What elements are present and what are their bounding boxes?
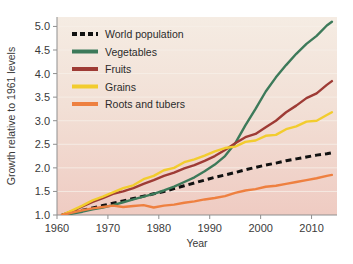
y-tick-label: 2.0 [35,162,50,174]
y-tick-label: 1.0 [35,209,50,221]
legend-label-fruits: Fruits [105,63,131,75]
y-tick-label: 4.5 [35,44,50,56]
y-tick-label: 3.0 [35,115,50,127]
legend-label-roots-and-tubers: Roots and tubers [105,98,185,110]
x-tick-label: 2000 [248,222,272,234]
legend-label-world-population: World population [105,28,184,40]
x-tick-label: 1970 [96,222,120,234]
chart-figure: 1.01.52.02.53.03.54.04.55.0 196019701980… [0,0,353,264]
plot-area-background [57,17,337,215]
x-tick-label: 2010 [299,222,323,234]
legend-label-vegetables: Vegetables [105,46,157,58]
y-tick-label: 1.5 [35,185,50,197]
y-tick-label: 4.0 [35,68,50,80]
x-tick-label: 1980 [147,222,171,234]
y-tick-label: 3.5 [35,91,50,103]
x-axis-title: Year [186,237,208,249]
y-tick-label: 2.5 [35,138,50,150]
x-tick-label: 1960 [45,222,69,234]
y-tick-label: 5.0 [35,20,50,32]
growth-relative-to-1961-line-chart: 1.01.52.02.53.03.54.04.55.0 196019701980… [0,0,353,264]
y-axis-title: Growth relative to 1961 levels [5,47,17,185]
legend-label-grains: Grains [105,81,136,93]
x-tick-label: 1990 [197,222,221,234]
